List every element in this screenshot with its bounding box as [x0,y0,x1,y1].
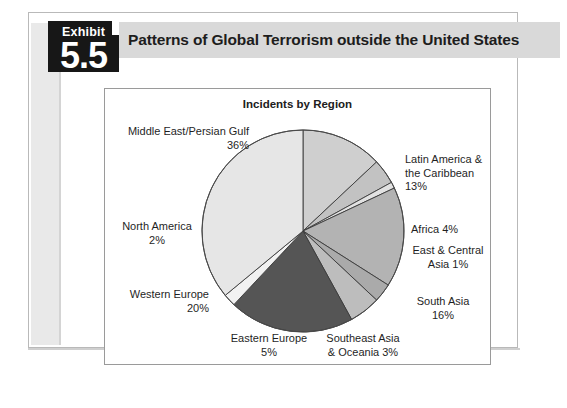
slice-label-east-central-asia: East & Central Asia 1% [399,244,497,271]
slice-label-eastern-europe: Eastern Europe 5% [217,332,321,359]
exhibit-badge: Exhibit 5.5 [48,21,119,72]
slice-label-middle-east: Middle East/Persian Gulf 36% [101,125,249,152]
slice-label-latin-america: Latin America & the Caribbean 13% [405,153,497,194]
chart-frame: Incidents by Region Middle East/Persian … [104,88,491,365]
slice-label-western-europe: Western Europe 20% [93,288,209,315]
slice-label-south-asia: South Asia 16% [401,295,485,322]
slice-label-southeast-asia: Southeast Asia & Oceania 3% [311,332,415,359]
exhibit-header-bar: Patterns of Global Terrorism outside the… [110,22,560,58]
badge-notch [112,21,119,35]
exhibit-number: 5.5 [48,38,119,72]
page-title: Patterns of Global Terrorism outside the… [128,31,519,49]
slice-label-north-america: North America 2% [105,220,209,247]
slice-label-africa: Africa 4% [411,223,497,237]
